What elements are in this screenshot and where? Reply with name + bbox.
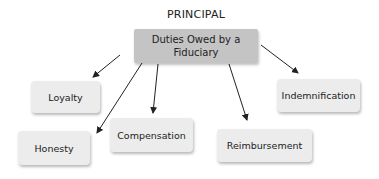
node-loyalty: Loyalty: [31, 81, 100, 113]
node-reimbursement: Reimbursement: [217, 129, 312, 162]
node-compensation: Compensation: [110, 118, 193, 152]
root-node-line1: Duties Owed by a: [152, 33, 241, 46]
arrow-to-reimbursement: [229, 64, 247, 120]
arrow-to-compensation: [153, 64, 158, 113]
arrow-to-loyalty: [93, 55, 120, 77]
root-node-line2: Fiduciary: [174, 46, 219, 59]
node-honesty: Honesty: [18, 131, 90, 165]
node-loyalty-label: Loyalty: [48, 91, 82, 104]
node-honesty-label: Honesty: [34, 142, 73, 155]
node-indemnification: Indemnification: [277, 79, 360, 112]
node-indemnification-label: Indemnification: [282, 89, 356, 102]
node-reimbursement-label: Reimbursement: [227, 139, 303, 152]
arrow-to-indemnification: [261, 45, 298, 73]
root-node-duties-owed: Duties Owed by a Fiduciary: [134, 29, 258, 63]
node-compensation-label: Compensation: [117, 129, 186, 142]
